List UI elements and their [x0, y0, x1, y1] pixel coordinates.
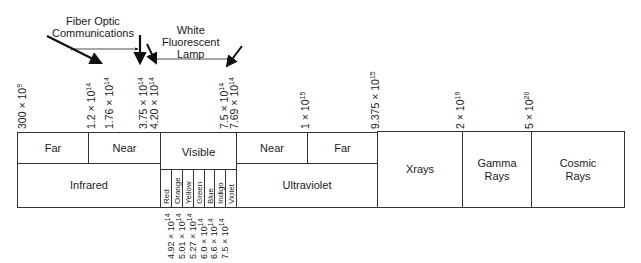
infrared-near: Near [88, 132, 161, 164]
fluorescent-arrow-1 [147, 44, 156, 63]
ultraviolet-near: Near [236, 132, 308, 164]
visible: Visible [160, 132, 237, 170]
fiber-arrow-1 [47, 36, 101, 63]
ultraviolet-far: Far [307, 132, 378, 164]
tick-label-1.76e14: 1.76 × 1014 [104, 77, 115, 129]
fluorescent-arrow-2 [227, 46, 242, 66]
band-orange: Orange [172, 170, 183, 207]
band-red: Red [161, 170, 172, 207]
band-violet: Violet [226, 170, 236, 207]
band-indigo: Indigo [215, 170, 226, 207]
tick-label-300e9: 300 × 109 [17, 84, 28, 129]
visible-bands: Red Orange Yellow Green Blue Indigo Viol… [160, 169, 237, 208]
gamma-rays: Gamma Rays [462, 131, 532, 208]
infrared-far: Far [17, 132, 89, 164]
tick-label-2e19: 2 × 1019 [455, 92, 466, 129]
tick-label-7.5e14-bottom: 7.5 × 1014 [220, 218, 231, 259]
tick-label-1e15: 1 × 1015 [300, 92, 311, 129]
cosmic-line1: Cosmic [560, 157, 597, 170]
band-yellow: Yellow [183, 170, 194, 207]
cosmic-rays: Cosmic Rays [531, 131, 625, 208]
band-blue: Blue [205, 170, 215, 207]
gamma-line1: Gamma [477, 157, 516, 170]
tick-label-5e20: 5 × 1020 [524, 92, 535, 129]
tick-label-4.20e14: 4.20 × 1014 [149, 77, 160, 129]
gamma-line2: Rays [484, 170, 509, 183]
band-green: Green [194, 170, 205, 207]
tick-label-1.2e14: 1.2 × 1014 [86, 83, 97, 129]
tick-label-9.375e15: 9.375 × 1015 [370, 71, 381, 129]
infrared: Infrared [17, 163, 161, 208]
tick-label-7.69e14: 7.69 × 1014 [229, 77, 240, 129]
xrays: Xrays [377, 131, 463, 208]
cosmic-line2: Rays [565, 170, 590, 183]
ultraviolet: Ultraviolet [236, 163, 378, 208]
